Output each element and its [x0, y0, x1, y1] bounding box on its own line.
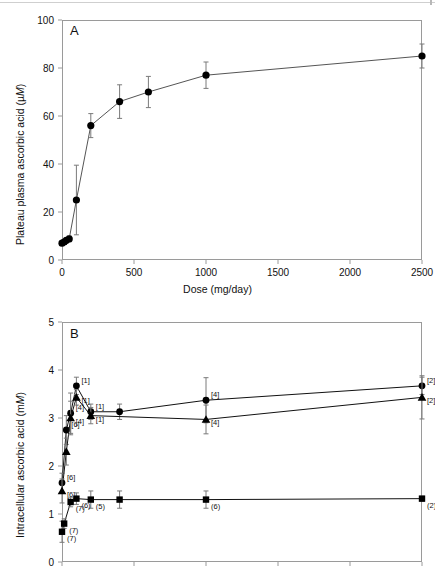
panel-b-data-point [62, 447, 71, 455]
y-axis-tick-label: 100 [37, 15, 54, 26]
panel-b-data-point [66, 414, 75, 422]
panel-b-point-label-7: (7) [67, 534, 77, 543]
panel-b-point-label-1: [1] [81, 376, 89, 385]
panel-a-data-point [87, 122, 94, 129]
panel-b-point-label-1: [1] [96, 415, 104, 424]
panel-b-point-label-2: [2] [427, 376, 435, 385]
y-axis-tick-label: 40 [43, 159, 55, 170]
y-axis-tick-label: 3 [48, 413, 54, 424]
y-axis-tick-label: 0 [48, 255, 54, 266]
panel-a-series [58, 44, 425, 247]
y-axis-tick-label: 2 [48, 461, 54, 472]
panel-a-data-point [202, 72, 209, 79]
panel-b-series-lymphocytes: (7)(7)(7)(6)(5)(6)(2) [59, 491, 435, 543]
panel-b-trend-line [62, 499, 422, 532]
panel-b: B Intracellular ascorbic acid (mM) 01234… [0, 300, 435, 581]
panel-b-data-point [59, 529, 65, 535]
panel-b-series-monocytes: [6][4][1][1][4][2] [58, 376, 435, 503]
panel-b-trend-line [62, 386, 422, 483]
panel-b-point-label-1: [1] [81, 396, 89, 405]
y-axis-tick-label: 0 [48, 557, 54, 568]
x-axis-tick-label: 0 [59, 267, 65, 278]
panel-b-data-point [73, 495, 79, 501]
panel-b-point-label-4: [4] [76, 417, 84, 426]
panel-b-point-label-6: (6) [211, 502, 221, 511]
panel-b-data-point [203, 496, 209, 502]
panel-a-data-point [418, 52, 425, 59]
panel-b-series-neutrophils: [6][6][4][1][1][4][2] [59, 376, 435, 493]
panel-b-data-point [61, 520, 67, 526]
panel-b-point-label-1: [1] [96, 402, 104, 411]
x-axis-tick-label: 2500 [411, 267, 434, 278]
panel-b-data-point [116, 408, 123, 415]
x-axis-tick-label: 1500 [267, 267, 290, 278]
panel-b-data-point [72, 393, 81, 401]
panel-a-data-point [145, 88, 152, 95]
panel-b-point-label-4: [4] [211, 390, 219, 399]
panel-b-data-point [67, 499, 73, 505]
panel-b-data-point [203, 397, 210, 404]
x-axis-tick-label: 1000 [195, 267, 218, 278]
y-axis-tick-label: 20 [43, 207, 55, 218]
panel-b-data-point [88, 496, 94, 502]
panel-a-data-point [73, 196, 80, 203]
panel-b-data-point [116, 496, 122, 502]
y-axis-tick-label: 5 [48, 317, 54, 328]
figure-root: A Plateau plasma ascorbic acid (µM) Dose… [0, 0, 435, 581]
y-axis-tick-label: 1 [48, 509, 54, 520]
panel-b-point-label-6: [6] [67, 473, 75, 482]
panel-a-data-point [66, 235, 73, 242]
panel-b-point-label-7: (7) [69, 526, 79, 535]
y-axis-tick-label: 80 [43, 63, 55, 74]
panel-b-data-point [58, 487, 67, 495]
panel-b-point-label-5: (5) [96, 502, 106, 511]
panel-a: A Plateau plasma ascorbic acid (µM) Dose… [0, 0, 435, 300]
panel-a-trend-line [62, 56, 422, 243]
panel-b-data-point [73, 382, 80, 389]
panel-b-point-label-2: (2) [427, 501, 435, 510]
panel-b-data-point [418, 393, 427, 401]
panel-b-data-point [419, 495, 425, 501]
panel-b-plot-canvas: 012345[6][6][4][1][1][4][2][6][4][1][1][… [0, 300, 435, 581]
panel-a-plot-canvas: 02040608010005001000150020002500 [0, 0, 435, 300]
x-axis-tick-label: 2000 [339, 267, 362, 278]
x-axis-tick-label: 500 [126, 267, 143, 278]
panel-b-point-label-2: [2] [427, 396, 435, 405]
panel-b-point-label-4: [4] [211, 418, 219, 427]
panel-a-data-point [116, 98, 123, 105]
y-axis-tick-label: 60 [43, 111, 55, 122]
y-axis-tick-label: 4 [48, 365, 54, 376]
